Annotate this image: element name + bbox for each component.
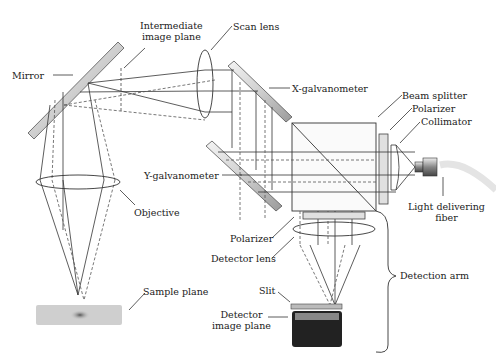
label-detection-arm: Detection arm	[400, 270, 469, 281]
mirror-component	[28, 42, 124, 139]
label-collimator: Collimator	[421, 116, 472, 127]
label-beam-splitter: Beam splitter	[402, 90, 467, 101]
label-intermediate-image-plane: Intermediate image plane	[140, 20, 203, 42]
x-galvo-mirror	[228, 61, 292, 122]
label-fiber-line1: Light delivering	[408, 201, 485, 212]
label-intermediate-line1: Intermediate	[140, 20, 203, 31]
label-detector-lens: Detector lens	[211, 253, 276, 264]
label-detector-image-plane: Detector image plane	[212, 309, 271, 331]
slit	[291, 304, 342, 309]
detector-lens	[293, 222, 375, 236]
scan-lens	[197, 50, 213, 118]
objective-lens	[36, 175, 120, 189]
label-intermediate-line2: image plane	[140, 31, 203, 42]
label-x-galvanometer: X-galvanometer	[292, 83, 368, 94]
label-light-delivering-fiber: Light delivering fiber	[408, 201, 485, 223]
detection-arm-brace	[376, 211, 396, 352]
label-sample-plane: Sample plane	[143, 286, 208, 297]
label-polarizer-bottom: Polarizer	[230, 233, 273, 244]
label-fiber-line2: fiber	[408, 212, 485, 223]
label-slit: Slit	[259, 285, 275, 296]
optical-diagram: Mirror Intermediate image plane Scan len…	[0, 0, 496, 363]
label-objective: Objective	[134, 207, 180, 218]
light-fiber	[440, 164, 496, 190]
label-y-galvanometer: Y-galvanometer	[144, 170, 219, 181]
label-detector-line1: Detector	[212, 309, 271, 320]
label-mirror: Mirror	[12, 70, 44, 81]
polarizer-bottom	[303, 212, 365, 219]
label-polarizer-top: Polarizer	[412, 103, 455, 114]
label-detector-line2: image plane	[212, 320, 271, 331]
label-scan-lens: Scan lens	[233, 21, 279, 32]
polarizer-top	[379, 134, 388, 204]
